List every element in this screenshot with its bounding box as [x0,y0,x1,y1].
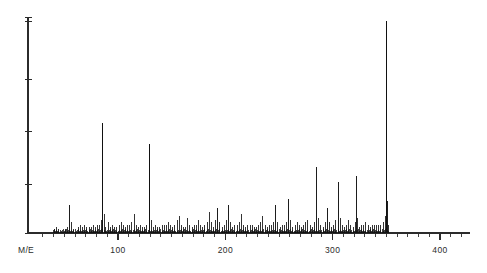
x-axis-tick-label-200: 200 [218,245,233,255]
spectrum-plot: 100200300400 [0,0,487,273]
x-axis-tick-label-300: 300 [325,245,340,255]
mass-spectrum-figure: 100200300400 M/E [0,0,487,273]
x-axis-tick-label-400: 400 [432,245,447,255]
spectrum-peaks [54,21,389,233]
x-axis-tick-label-100: 100 [110,245,125,255]
x-axis-label: M/E [18,245,34,255]
